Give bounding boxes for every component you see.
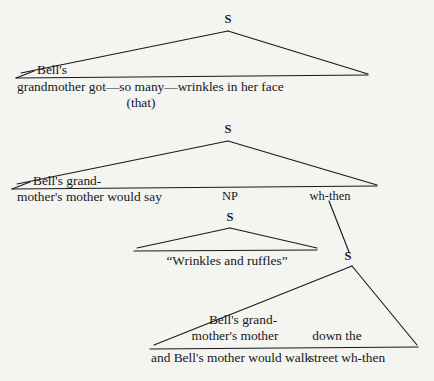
tree4-terminal-down-the: down the xyxy=(312,329,361,342)
tree2-node-np: NP xyxy=(222,190,238,203)
tree3-right-branch xyxy=(230,228,317,248)
tree4-root-node-s: S xyxy=(345,250,352,263)
tree1-terminal-main-line: grandmother got—so many—wrinkles in her … xyxy=(17,80,284,93)
tree1-root-node-s: S xyxy=(225,13,232,26)
tree2-root-node-s: S xyxy=(225,123,232,136)
tree4-terminal-and-bells-mother-would-walk: and Bell's mother would walk xyxy=(151,351,311,364)
tree1-right-branch xyxy=(228,31,368,74)
tree4-baseline xyxy=(150,347,418,349)
tree1-left-foot xyxy=(16,71,34,78)
whthen-to-s4-branch xyxy=(329,201,349,252)
tree3-root-node-s: S xyxy=(227,211,234,224)
tree4-terminal-mothers-mother: mother's mother xyxy=(192,329,279,342)
tree3-terminal-wrinkles-and-ruffles: “Wrinkles and ruffles” xyxy=(166,254,287,267)
tree2-node-wh-then: wh-then xyxy=(310,190,351,203)
tree4-right-branch xyxy=(352,266,417,345)
tree-diagram-figure: S Bell's grandmother got—so many—wrinkle… xyxy=(0,0,434,381)
tree2-terminal-mothers-mother-would-say: mother's mother would say xyxy=(17,190,162,203)
tree2-terminal-bells-grand: Bell's grand- xyxy=(33,174,101,187)
tree1-terminal-bells: Bell's xyxy=(37,63,67,76)
tree3-left-branch xyxy=(137,228,230,248)
tree1-terminal-that: (that) xyxy=(127,96,156,109)
tree2-right-branch xyxy=(228,141,377,185)
tree3-baseline xyxy=(134,250,317,251)
tree4-terminal-street-wh-then: street wh-then xyxy=(309,351,385,364)
tree4-terminal-bells-grand: Bell's grand- xyxy=(209,313,277,326)
tree2-left-foot xyxy=(12,182,30,189)
tree1-baseline xyxy=(16,75,368,78)
